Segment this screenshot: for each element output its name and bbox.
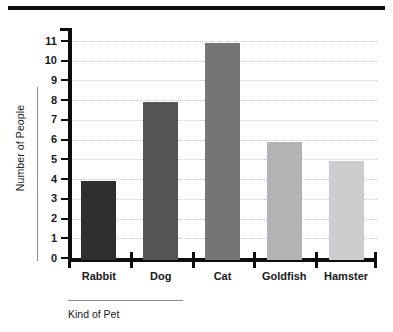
x-tick-label-dog: Dog	[130, 270, 192, 282]
y-tick-label: 9	[30, 75, 57, 86]
x-tick-label-hamster: Hamster	[315, 270, 377, 282]
y-tick-label: 6	[30, 134, 57, 145]
x-tick-label-cat: Cat	[192, 270, 254, 282]
x-tick-mark	[315, 252, 318, 268]
x-tick-label-rabbit: Rabbit	[68, 270, 130, 282]
x-axis-title-rule	[68, 300, 183, 301]
bar-rabbit	[81, 181, 116, 260]
y-tick-label: 2	[30, 213, 57, 224]
bar-cat	[205, 43, 240, 260]
y-tick-label: 5	[30, 154, 57, 165]
x-tick-mark	[374, 252, 377, 268]
y-tick-label: 8	[30, 95, 57, 106]
y-tick-label: 4	[30, 174, 57, 185]
x-tick-label-goldfish: Goldfish	[253, 270, 315, 282]
bar-hamster	[329, 161, 364, 260]
y-axis-title: Number of People	[14, 93, 26, 203]
x-tick-mark	[68, 252, 71, 268]
bars-group	[68, 28, 377, 260]
y-tick-label: 10	[30, 55, 57, 66]
x-tick-mark	[130, 252, 133, 268]
y-tick-label: 11	[30, 36, 57, 47]
y-tick-label: 0	[30, 253, 57, 264]
bar-chart-figure: Number of People 01234567891011 RabbitDo…	[0, 0, 393, 332]
x-tick-mark	[253, 252, 256, 268]
y-tick-label: 1	[30, 233, 57, 244]
x-axis-title: Kind of Pet	[68, 308, 119, 320]
y-tick-label: 3	[30, 193, 57, 204]
x-tick-mark	[192, 252, 195, 268]
bar-goldfish	[267, 142, 302, 260]
bar-dog	[143, 102, 178, 260]
y-tick-label: 7	[30, 114, 57, 125]
